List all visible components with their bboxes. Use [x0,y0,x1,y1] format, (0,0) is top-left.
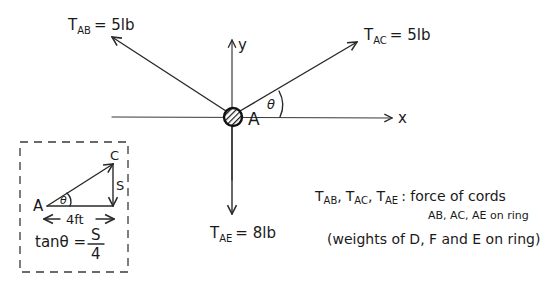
y-axis-label: y [238,36,247,54]
inset-4ft-label: 4ft [66,212,84,227]
notes-line-2: AB, AC, AE on ring [428,209,529,222]
inset-s-label: S [116,178,124,193]
force-t-ab: TAB= 5lb [67,16,226,111]
t-ae-label: TAE= 8lb [209,224,276,244]
free-body-diagram: x y TAB= 5lb TAC= 5lb TAE= 8lb θ A [0,0,552,285]
t-ac-label: TAC= 5lb [363,26,430,46]
force-t-ae: TAE= 8lb [209,126,276,244]
x-axis-label: x [398,109,407,127]
geometry-inset: θ A C S 4ft tanθ = S 4 [20,142,128,272]
notes-line-1: TAB,TAC,TAE: force of cords [314,188,506,206]
ring-label: A [248,109,260,129]
inset-point-a: A [33,197,44,215]
ring-a: A [224,108,260,129]
inset-theta-label: θ [60,194,67,207]
t-ab-label: TAB= 5lb [67,16,134,36]
theta-label: θ [267,97,275,112]
triangle-hypotenuse [47,164,113,206]
notes-line-3: (weights of D, F and E on ring) [327,231,540,247]
inset-equation-den: 4 [91,245,101,263]
force-notes: TAB,TAC,TAE: force of cords AB, AC, AE o… [314,188,540,247]
inset-angle-arc [67,193,71,206]
angle-theta: θ [267,91,283,117]
inset-equation-lhs: tanθ = [35,233,86,251]
inset-equation-num: S [91,226,101,244]
inset-point-c: C [110,148,119,163]
